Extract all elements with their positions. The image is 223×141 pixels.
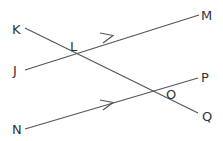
geometry-diagram: K J L M N O P Q: [0, 0, 223, 141]
label-l: L: [70, 39, 78, 54]
arrow-icon-jm: [100, 33, 113, 43]
label-q: Q: [202, 109, 212, 124]
label-p: P: [201, 70, 209, 85]
label-o: O: [166, 87, 176, 102]
label-k: K: [12, 22, 21, 37]
label-n: N: [12, 122, 22, 137]
line-jm: [25, 15, 199, 70]
label-m: M: [201, 8, 212, 23]
label-j: J: [12, 63, 17, 78]
